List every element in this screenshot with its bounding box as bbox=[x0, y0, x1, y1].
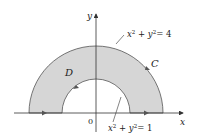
outer-circle-equation: x2 + y2= 4 bbox=[127, 29, 171, 40]
origin-label: 0 bbox=[88, 117, 93, 126]
inner-leader-line bbox=[113, 97, 121, 122]
outer-leader-line bbox=[116, 35, 124, 44]
y-axis-label: y bbox=[86, 11, 93, 21]
inner-circle-equation: x2 + y2= 1 bbox=[108, 123, 152, 134]
curve-label: C bbox=[151, 58, 159, 69]
diagram-canvas: y x 0 D C x2 + y2= 4 x2 + y2= 1 bbox=[0, 0, 197, 139]
x-axis-label: x bbox=[180, 117, 185, 127]
orientation-arrow-icon bbox=[145, 66, 150, 70]
region-label: D bbox=[64, 67, 73, 78]
